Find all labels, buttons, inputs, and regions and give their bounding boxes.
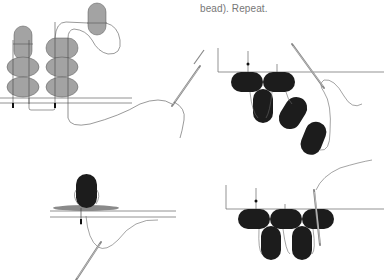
black-bead <box>261 226 281 260</box>
black-bead <box>263 72 295 92</box>
black-bead <box>238 209 270 229</box>
gray-bead <box>88 3 106 35</box>
figure-2 <box>194 44 384 158</box>
black-bead <box>275 93 312 133</box>
gray-bead <box>46 77 78 97</box>
figure-1 <box>0 3 200 138</box>
gray-bead <box>7 57 39 77</box>
black-bead <box>297 118 329 157</box>
beading-illustrations <box>0 0 384 280</box>
black-bead <box>231 72 263 92</box>
gray-bead <box>46 38 78 58</box>
black-bead <box>76 174 97 208</box>
figure-3 <box>50 174 176 280</box>
gray-bead <box>7 77 39 97</box>
figure-4 <box>226 160 384 260</box>
black-bead <box>292 226 312 260</box>
black-bead <box>270 209 302 229</box>
gray-bead <box>46 57 78 77</box>
